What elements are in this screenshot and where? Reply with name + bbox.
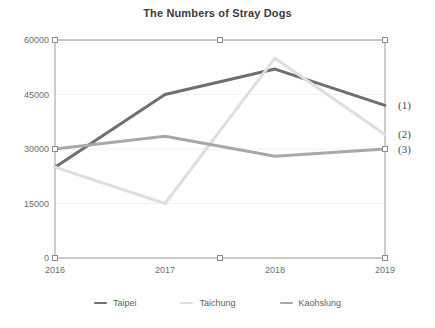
y-tick-label: 60000 xyxy=(24,35,49,45)
stray-dogs-line-chart: The Numbers of Stray Dogs 01500030000450… xyxy=(0,0,435,328)
legend-label: Taichung xyxy=(199,298,235,308)
annotation-marker: (3) xyxy=(398,143,411,155)
axis-marker xyxy=(53,256,58,261)
legend-label: Kaohslung xyxy=(299,298,342,308)
gridlines xyxy=(55,40,385,258)
axis-marker xyxy=(218,38,223,43)
legend-item[interactable]: Taichung xyxy=(180,298,235,308)
y-axis-tick-labels: 015000300004500060000 xyxy=(0,40,49,258)
plot-svg xyxy=(55,40,385,258)
legend-swatch-icon xyxy=(94,302,107,305)
legend-item[interactable]: Taipei xyxy=(94,298,137,308)
series-line-taichung xyxy=(55,58,385,203)
x-tick-label: 2016 xyxy=(45,265,65,275)
y-tick-label: 0 xyxy=(44,253,49,263)
legend-swatch-icon xyxy=(180,302,193,305)
chart-legend: TaipeiTaichungKaohslung xyxy=(0,298,435,308)
y-tick-label: 30000 xyxy=(24,144,49,154)
axis-marker xyxy=(383,256,388,261)
chart-title: The Numbers of Stray Dogs xyxy=(0,7,435,19)
x-axis-tick-labels: 2016201720182019 xyxy=(55,265,385,279)
series-lines xyxy=(55,58,385,203)
plot-area xyxy=(55,40,385,258)
y-tick-label: 45000 xyxy=(24,90,49,100)
legend-label: Taipei xyxy=(113,298,137,308)
axis-marker xyxy=(218,256,223,261)
axis-marker xyxy=(383,38,388,43)
legend-swatch-icon xyxy=(280,302,293,305)
series-line-kaohslung xyxy=(55,136,385,156)
x-tick-label: 2019 xyxy=(375,265,395,275)
x-tick-label: 2018 xyxy=(265,265,285,275)
axis-marker xyxy=(383,147,388,152)
y-tick-label: 15000 xyxy=(24,199,49,209)
annotation-marker: (2) xyxy=(398,128,411,140)
axis-marker xyxy=(53,147,58,152)
axis-marker xyxy=(53,38,58,43)
x-tick-label: 2017 xyxy=(155,265,175,275)
legend-item[interactable]: Kaohslung xyxy=(280,298,342,308)
annotation-marker: (1) xyxy=(398,99,411,111)
